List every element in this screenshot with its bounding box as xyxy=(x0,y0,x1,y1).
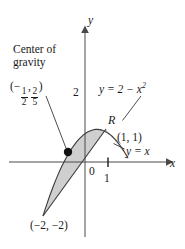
parabola-equation-text: y = 2 − x xyxy=(99,83,142,95)
center-of-gravity-coordinates: (−12,25) xyxy=(10,80,43,107)
center-of-gravity-dot xyxy=(64,148,72,156)
origin-label: 0 xyxy=(89,165,95,178)
cog-minus-sign: − xyxy=(14,80,21,92)
leader-line-parabola xyxy=(123,96,142,121)
cog-close-paren: ) xyxy=(39,80,43,92)
center-of-gravity-caption: Center of gravity xyxy=(13,43,56,69)
center-of-gravity-line2: gravity xyxy=(13,56,46,68)
x-axis-label: x xyxy=(170,157,175,170)
y-axis-tick-label-2: 2 xyxy=(73,86,79,99)
curve-line-y-equals-x xyxy=(43,129,106,216)
cog-x-fraction: 12 xyxy=(21,87,28,107)
figure-canvas: Center of gravity (−12,25) y x 2 0 1 y =… xyxy=(0,0,185,249)
parabola-exponent: 2 xyxy=(142,81,146,90)
x-axis-tick-label-1: 1 xyxy=(104,172,110,185)
cog-y-denominator: 5 xyxy=(31,97,38,108)
line-equation-label: y = x xyxy=(126,145,150,158)
figure-graphics xyxy=(0,0,185,249)
y-axis-label: y xyxy=(88,14,93,27)
point-label-minus2-minus2: (−2, −2) xyxy=(30,219,68,232)
leader-line-center-of-gravity xyxy=(46,96,66,149)
region-label-R: R xyxy=(108,114,115,127)
center-of-gravity-line1: Center of xyxy=(13,43,56,55)
cog-x-numerator: 1 xyxy=(21,87,28,97)
cog-y-numerator: 2 xyxy=(31,87,38,97)
parabola-equation-label: y = 2 − x2 xyxy=(99,82,146,96)
cog-y-fraction: 25 xyxy=(31,87,38,107)
cog-x-denominator: 2 xyxy=(21,97,28,108)
point-label-1-1: (1, 1) xyxy=(117,131,142,144)
